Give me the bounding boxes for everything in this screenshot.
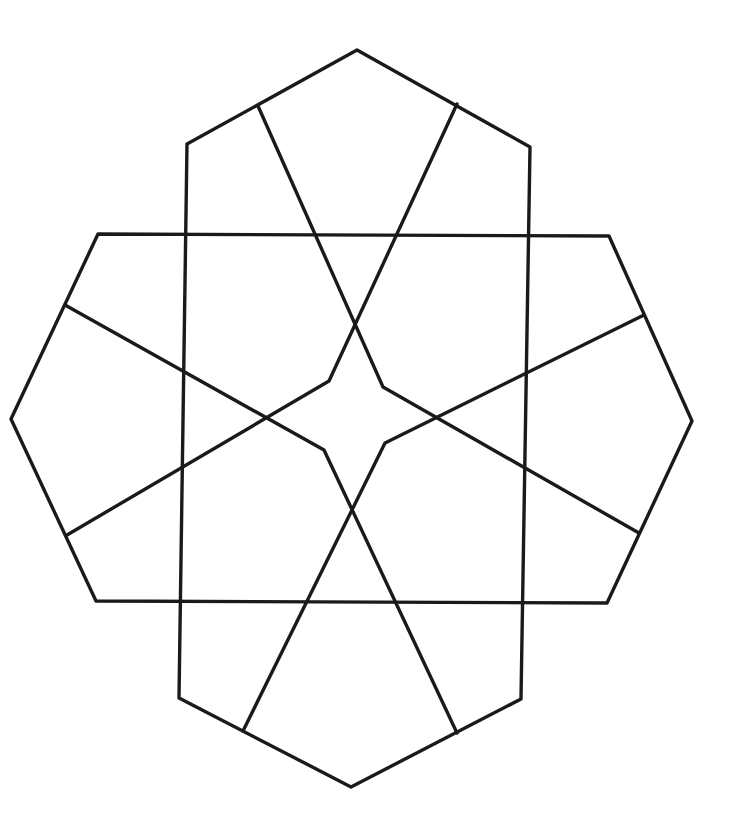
geometric-star-pattern-diagram <box>0 0 739 840</box>
star-arm-top-right-to-inner <box>67 104 457 535</box>
star-arm-right-to-inner <box>243 315 644 731</box>
outer-hexagons <box>11 50 692 787</box>
star-arm-top-left-to-inner <box>258 106 639 533</box>
horizontal-hexagon <box>11 234 692 603</box>
interlaced-star-lines <box>65 104 644 733</box>
vertical-hexagon <box>179 50 530 787</box>
diagram-canvas <box>0 0 739 840</box>
star-arm-left-to-inner <box>65 305 457 733</box>
